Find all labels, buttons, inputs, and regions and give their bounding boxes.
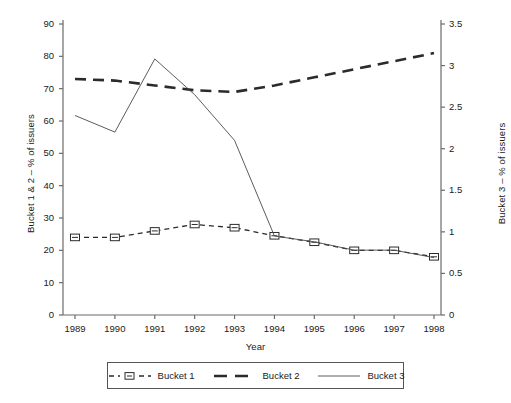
x-axis-tick-label: 1997 — [374, 323, 414, 334]
legend-item-bucket-1[interactable]: Bucket 1 — [107, 369, 195, 383]
chart-legend: Bucket 1Bucket 2Bucket 3 — [107, 362, 404, 389]
x-axis-tick-label: 1998 — [414, 323, 454, 334]
chart-container: Bucket 1 & 2 – % of issuers Bucket 3 – %… — [0, 0, 511, 403]
y-axis-right-tick-label: 2.5 — [449, 101, 475, 112]
y-axis-left-tick-label: 60 — [30, 115, 54, 126]
y-axis-left-tick-label: 30 — [30, 212, 54, 223]
x-axis-title: Year — [0, 341, 511, 352]
y-axis-left-tick-label: 40 — [30, 180, 54, 191]
y-axis-right-tick-label: 3.5 — [449, 18, 475, 29]
legend-swatch-bucket-1-icon — [107, 369, 153, 383]
x-axis-tick-label: 1995 — [294, 323, 334, 334]
legend-label: Bucket 2 — [263, 370, 300, 381]
y-axis-left-tick-label: 70 — [30, 83, 54, 94]
y-axis-left-tick-label: 10 — [30, 277, 54, 288]
legend-label: Bucket 3 — [367, 370, 404, 381]
y-axis-left-tick-label: 0 — [30, 309, 54, 320]
x-axis-tick-label: 1991 — [135, 323, 175, 334]
x-axis-tick-label: 1996 — [334, 323, 374, 334]
legend-item-bucket-3[interactable]: Bucket 3 — [316, 369, 404, 383]
legend-swatch-bucket-3-icon — [316, 369, 362, 383]
legend-item-bucket-2[interactable]: Bucket 2 — [212, 369, 300, 383]
x-axis-tick-label: 1989 — [55, 323, 95, 334]
x-axis-tick-label: 1994 — [254, 323, 294, 334]
y-axis-right-tick-label: 1 — [449, 226, 475, 237]
x-axis-tick-label: 1990 — [95, 323, 135, 334]
y-axis-left-tick-label: 90 — [30, 18, 54, 29]
legend-label: Bucket 1 — [158, 370, 195, 381]
y-axis-right-tick-label: 0.5 — [449, 267, 475, 278]
y-axis-right-tick-label: 0 — [449, 309, 475, 320]
x-axis-tick-label: 1993 — [215, 323, 255, 334]
y-axis-right-tick-label: 2 — [449, 143, 475, 154]
y-axis-left-tick-label: 80 — [30, 50, 54, 61]
x-axis-tick-label: 1992 — [175, 323, 215, 334]
series-line-bucket-2 — [75, 53, 434, 92]
series-line-bucket-1 — [75, 224, 434, 256]
legend-swatch-bucket-2-icon — [212, 369, 258, 383]
y-axis-right-tick-label: 1.5 — [449, 184, 475, 195]
y-axis-right-tick-label: 3 — [449, 60, 475, 71]
y-axis-right-title: Bucket 3 – % of issuers — [496, 84, 507, 264]
y-axis-left-title: Bucket 1 & 2 – % of issuers — [25, 84, 36, 264]
y-axis-left-tick-label: 50 — [30, 147, 54, 158]
y-axis-left-tick-label: 20 — [30, 244, 54, 255]
